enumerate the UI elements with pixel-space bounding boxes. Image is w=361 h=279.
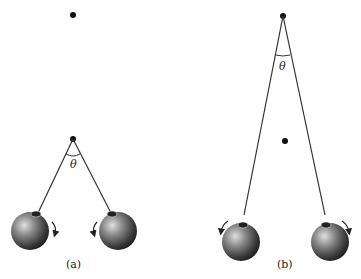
string-attachment [238,222,248,228]
right-ball [99,211,137,250]
upper-point [70,12,76,18]
string-attachment [321,222,331,228]
rotation-arrow-icon [52,222,56,234]
panel-caption: (b) [277,258,293,271]
panel-caption: (a) [66,258,81,271]
panel-b: θ (b) [221,13,349,271]
angle-label: θ [279,60,286,73]
right-string [73,139,111,213]
middle-point [282,138,288,144]
left-ball [11,211,49,250]
left-ball [222,222,260,261]
pendulum-diagram: θ (a) θ (b) [0,0,361,279]
left-string [244,16,283,215]
angle-label: θ [70,158,77,171]
string-attachment [107,211,117,217]
right-string [283,16,325,215]
rotation-arrow-icon [93,222,97,234]
right-ball [311,222,349,261]
angle-arc [276,55,290,56]
string-attachment [31,211,41,217]
left-string [38,139,73,213]
panel-a: θ (a) [11,12,137,271]
angle-arc [66,154,80,156]
